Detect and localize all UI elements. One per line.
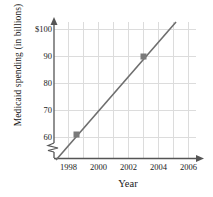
y-tick-label: 70	[20, 106, 52, 115]
data-point-markers	[74, 54, 147, 138]
data-point-marker	[141, 54, 147, 60]
y-tick-label: 90	[20, 52, 52, 61]
x-tick-label: 2006	[169, 163, 209, 172]
horizontal-gridlines	[54, 30, 196, 138]
y-tick-label: $100	[20, 25, 52, 34]
medicaid-spending-line-chart: Medicaid spending (in billions) $100 90 …	[0, 0, 213, 197]
y-tick-label: 60	[20, 133, 52, 142]
x-axis-title: Year	[53, 178, 203, 189]
y-tick-labels: $100 90 80 70 60	[18, 0, 52, 197]
y-tick-label: 80	[20, 79, 52, 88]
data-point-marker	[74, 132, 80, 138]
